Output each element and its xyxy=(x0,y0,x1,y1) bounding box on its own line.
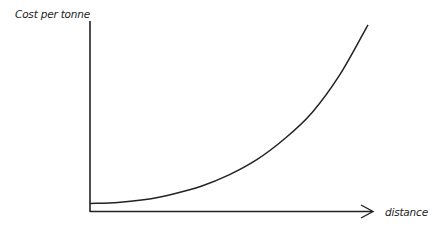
chart-canvas xyxy=(0,0,435,226)
cost-curve xyxy=(90,25,368,204)
